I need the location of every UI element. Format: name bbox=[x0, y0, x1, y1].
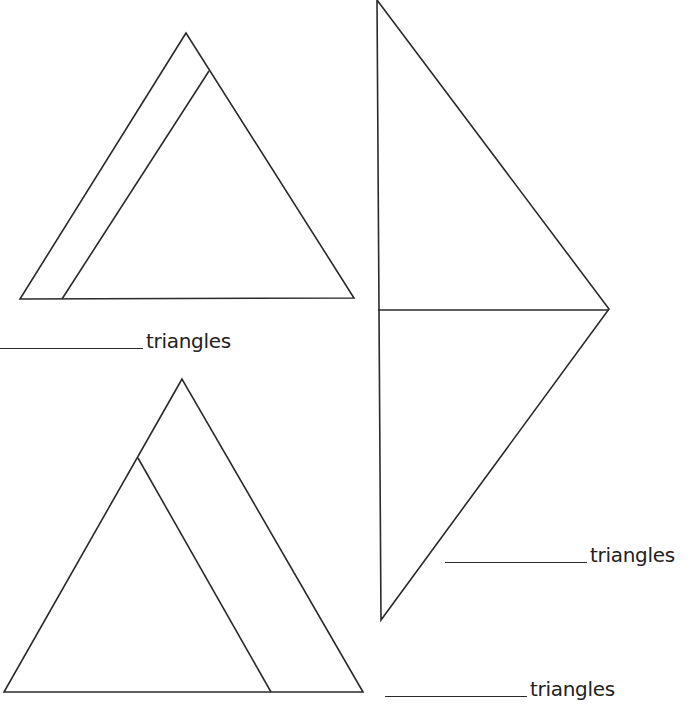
figure-3-divider-line bbox=[138, 458, 271, 692]
figure-2-kite bbox=[377, 0, 609, 620]
figure-3-outer-triangle bbox=[4, 379, 363, 692]
answer-blank-3[interactable] bbox=[385, 676, 527, 697]
worksheet-figures bbox=[0, 0, 698, 713]
answer-label-2: triangles bbox=[590, 545, 675, 565]
answer-row-1: triangles bbox=[0, 323, 231, 349]
figure-1-divider-line bbox=[62, 71, 209, 299]
answer-row-2: triangles bbox=[445, 537, 675, 563]
answer-blank-2[interactable] bbox=[445, 542, 587, 563]
figure-1-triangle bbox=[20, 33, 354, 299]
figure-3-triangle bbox=[4, 379, 363, 692]
answer-label-1: triangles bbox=[146, 331, 231, 351]
figure-1-outer-triangle bbox=[20, 33, 354, 299]
answer-label-3: triangles bbox=[530, 679, 615, 699]
answer-row-3: triangles bbox=[385, 671, 615, 697]
answer-blank-1[interactable] bbox=[0, 328, 143, 349]
